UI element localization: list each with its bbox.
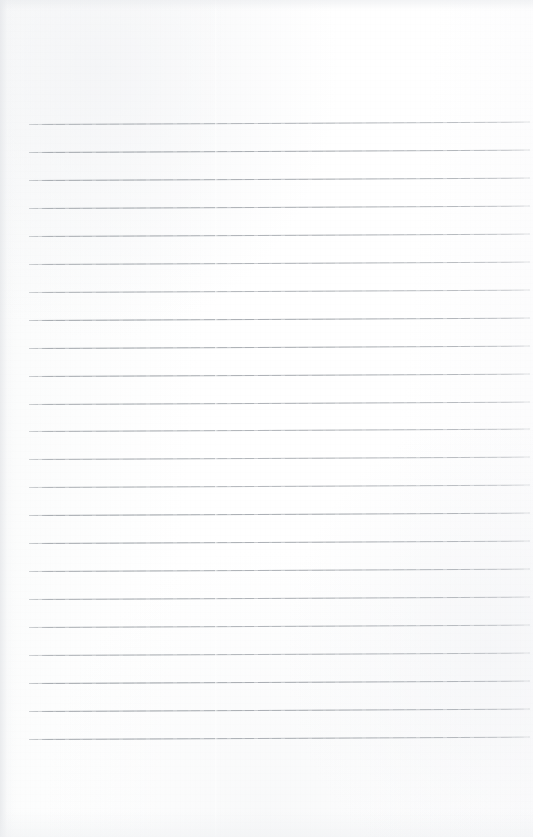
rule-line xyxy=(29,289,530,292)
rule-line xyxy=(29,653,530,656)
rule-line xyxy=(29,708,530,711)
rule-line xyxy=(29,205,530,208)
rule-line xyxy=(29,597,530,600)
rule-line xyxy=(29,429,530,432)
rule-line xyxy=(29,541,530,544)
rule-line xyxy=(29,513,530,516)
rule-line xyxy=(29,485,530,488)
ruled-lines-layer xyxy=(0,0,533,837)
rule-line xyxy=(29,177,530,180)
scanned-page xyxy=(0,0,533,837)
rule-line xyxy=(29,569,530,572)
rule-line xyxy=(29,625,530,628)
rule-line xyxy=(29,149,530,152)
rule-line xyxy=(29,122,530,125)
rule-line xyxy=(29,401,530,404)
rule-line xyxy=(29,261,530,264)
rule-line xyxy=(29,317,530,320)
rule-line xyxy=(29,373,530,376)
rule-line xyxy=(29,233,530,236)
rule-line xyxy=(29,345,530,348)
rule-line xyxy=(29,681,530,684)
rule-line xyxy=(29,736,530,739)
rule-line xyxy=(29,457,530,460)
